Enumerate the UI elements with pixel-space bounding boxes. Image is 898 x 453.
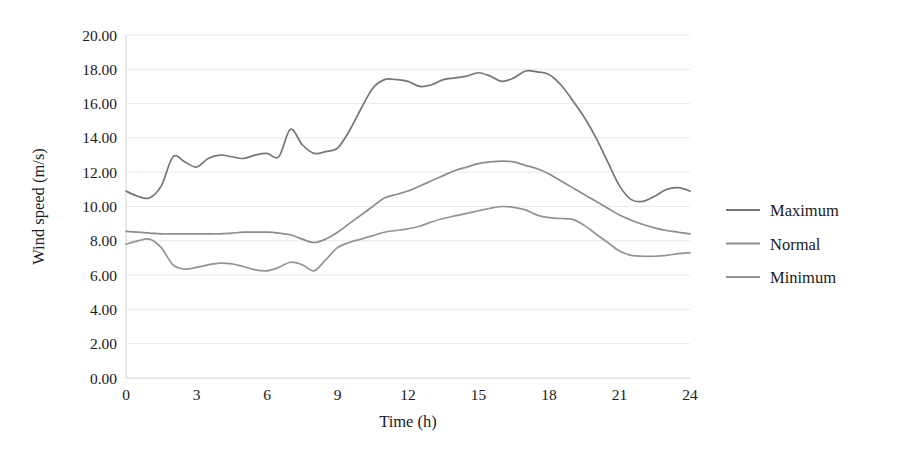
series-line-maximum [126,71,690,202]
x-tick-label: 24 [682,386,698,403]
y-tick-label: 16.00 [82,95,117,112]
series-line-minimum [126,206,690,270]
y-tick-label: 8.00 [90,232,117,249]
y-tick-label: 4.00 [90,301,117,318]
chart-legend: MaximumNormalMinimum [726,201,839,287]
series-line-normal [126,161,690,242]
y-tick-label: 18.00 [82,61,117,78]
wind-speed-chart-figure: 0.002.004.006.008.0010.0012.0014.0016.00… [0,0,898,453]
y-tick-label: 2.00 [90,335,117,352]
x-tick-label: 0 [122,386,130,403]
y-tick-label: 10.00 [82,198,117,215]
x-axis-tick-labels: 03691215182124 [122,386,698,403]
x-tick-label: 9 [334,386,342,403]
legend-label-normal: Normal [770,235,821,254]
y-tick-label: 12.00 [82,164,117,181]
x-axis-title: Time (h) [379,412,437,431]
y-axis-tick-labels: 0.002.004.006.008.0010.0012.0014.0016.00… [82,27,117,387]
y-tick-label: 14.00 [82,129,117,146]
y-tick-label: 6.00 [90,267,117,284]
chart-canvas: 0.002.004.006.008.0010.0012.0014.0016.00… [0,0,898,453]
x-tick-label: 3 [193,386,201,403]
y-tick-label: 20.00 [82,27,117,44]
x-tick-label: 12 [400,386,416,403]
x-tick-label: 21 [612,386,628,403]
legend-label-minimum: Minimum [770,268,836,287]
x-tick-label: 18 [541,386,557,403]
legend-label-maximum: Maximum [770,201,839,220]
y-axis-title: Wind speed (m/s) [29,148,48,265]
x-tick-label: 15 [471,386,487,403]
y-tick-label: 0.00 [90,370,117,387]
x-tick-label: 6 [263,386,271,403]
